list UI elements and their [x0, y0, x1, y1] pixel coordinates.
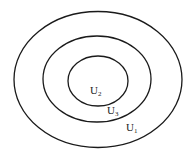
- middle-ellipse-u3: [43, 36, 151, 122]
- inner-ellipse-u2: [68, 56, 128, 106]
- label-u2: U2: [90, 84, 102, 98]
- label-u1: U1: [126, 121, 138, 135]
- outer-ellipse-u1: [14, 12, 182, 148]
- nested-sets-diagram: U2 U3 U1: [0, 0, 189, 158]
- label-u3: U3: [107, 104, 119, 118]
